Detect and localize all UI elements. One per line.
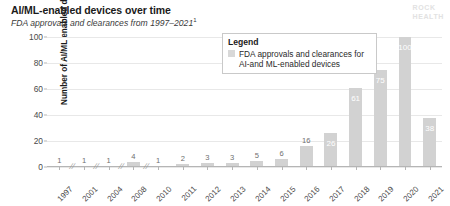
- y-tick-label: 60: [34, 84, 43, 94]
- bar-rect: [399, 37, 412, 167]
- legend-swatch-icon: [228, 50, 235, 57]
- x-tick-mark: [380, 167, 381, 170]
- y-tick-mark: [44, 63, 47, 64]
- x-tick-mark: [59, 167, 60, 170]
- footnote-marker: 1: [193, 17, 196, 23]
- x-tick-label: 2021: [426, 185, 445, 204]
- bar: 61: [349, 88, 362, 167]
- x-tick-mark: [109, 167, 110, 170]
- gridline: [47, 167, 442, 168]
- y-tick-label: 100: [29, 32, 43, 42]
- page-title: AI/ML-enabled devices over time: [11, 4, 171, 16]
- axis-break-marker: //: [68, 164, 75, 170]
- bar-value-label: 75: [360, 76, 400, 85]
- logo-line-2: HEALTH: [413, 13, 444, 22]
- bar-value-label: 38: [410, 124, 450, 133]
- chart-subtitle-text: FDA approvals and clearances from 1997–2…: [11, 18, 193, 28]
- axis-break-marker: //: [142, 164, 149, 170]
- y-tick-mark: [44, 89, 47, 90]
- x-tick-mark: [183, 167, 184, 170]
- x-tick-mark: [356, 167, 357, 170]
- bar-value-label: 100: [385, 43, 425, 52]
- x-tick-label: 2017: [328, 185, 347, 204]
- bar: 75: [374, 70, 387, 167]
- x-tick-label: 2020: [402, 185, 421, 204]
- x-tick-label: 2010: [155, 185, 174, 204]
- x-tick-mark: [84, 167, 85, 170]
- chart-screenshot: AI/ML-enabled devices over time FDA appr…: [0, 0, 450, 206]
- y-tick-label: 20: [34, 136, 43, 146]
- legend-item-label: FDA approvals and clearances for AI-and …: [239, 49, 371, 69]
- x-tick-label: 2013: [229, 185, 248, 204]
- chart-subtitle: FDA approvals and clearances from 1997–2…: [11, 17, 197, 28]
- x-tick-mark: [306, 167, 307, 170]
- x-tick-mark: [430, 167, 431, 170]
- bar-value-label: 61: [336, 94, 376, 103]
- bar: 38: [423, 118, 436, 167]
- x-tick-label: 2012: [204, 185, 223, 204]
- bar: 16: [300, 146, 313, 167]
- legend: Legend FDA approvals and clearances for …: [222, 33, 377, 74]
- x-tick-label: 2001: [81, 185, 100, 204]
- x-tick-label: 2004: [105, 185, 124, 204]
- y-tick-label: 80: [34, 58, 43, 68]
- x-tick-mark: [282, 167, 283, 170]
- x-tick-mark: [232, 167, 233, 170]
- x-tick-label: 2018: [352, 185, 371, 204]
- x-tick-label: 2016: [303, 185, 322, 204]
- x-tick-label: 2008: [130, 185, 149, 204]
- rock-health-logo: ROCK HEALTH: [413, 4, 444, 21]
- x-tick-mark: [158, 167, 159, 170]
- x-tick-mark: [133, 167, 134, 170]
- bar: 26: [324, 133, 337, 167]
- bar: 100: [399, 37, 412, 167]
- x-tick-label: 2014: [253, 185, 272, 204]
- x-tick-mark: [405, 167, 406, 170]
- logo-line-1: ROCK: [413, 4, 444, 13]
- bar-rect: [300, 146, 313, 167]
- legend-item: FDA approvals and clearances for AI-and …: [228, 49, 371, 69]
- x-tick-label: 2019: [377, 185, 396, 204]
- legend-title: Legend: [228, 37, 371, 47]
- x-tick-mark: [257, 167, 258, 170]
- y-tick-mark: [44, 37, 47, 38]
- y-tick-mark: [44, 141, 47, 142]
- x-tick-mark: [207, 167, 208, 170]
- bar-value-label: 6: [262, 149, 302, 158]
- bar-value-label: 26: [311, 139, 351, 148]
- x-tick-label: 2011: [180, 184, 199, 203]
- x-axis-line: [47, 166, 442, 167]
- x-tick-label: 2015: [278, 185, 297, 204]
- x-tick-mark: [331, 167, 332, 170]
- y-tick-mark: [44, 115, 47, 116]
- y-tick-label: 40: [34, 110, 43, 120]
- x-tick-label: 1997: [56, 185, 75, 204]
